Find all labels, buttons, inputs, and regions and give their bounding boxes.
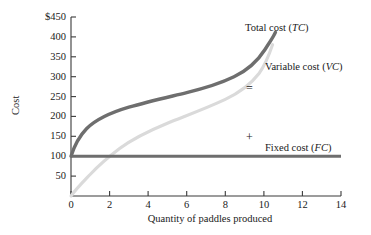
y-tick-label-150: 150 [12,131,66,142]
x-tick-label-14: 14 [327,200,355,211]
fixed-cost-label-suffix: ) [328,142,332,153]
total-cost-label: Total cost (TC) [245,23,308,34]
variable-cost-curve [71,45,273,196]
x-tick-label-8: 8 [211,200,239,211]
fixed-cost-label: Fixed cost (FC) [265,143,332,154]
variable-cost-label-prefix: Variable cost ( [265,61,326,72]
variable-cost-label-symbol: VC [326,61,339,72]
x-tick-label-2: 2 [96,200,124,211]
y-tick-label-100: 100 [12,151,66,162]
total-cost-label-prefix: Total cost ( [245,22,292,33]
fixed-cost-label-symbol: FC [315,142,328,153]
fixed-cost-label-prefix: Fixed cost ( [265,142,315,153]
variable-cost-label: Variable cost (VC) [265,62,343,73]
y-tick-label-400: 400 [12,32,66,43]
x-axis-title: Quantity of paddles produced [110,214,310,225]
x-tick-label-4: 4 [134,200,162,211]
cost-curves-chart: $450 400 350 300 250 200 150 100 50 0 2 … [0,0,371,235]
x-tick-label-0: 0 [57,200,85,211]
variable-cost-label-suffix: ) [339,61,343,72]
x-tick-label-12: 12 [288,200,316,211]
x-tick-label-10: 10 [250,200,278,211]
x-axis-ticks [71,191,341,196]
x-tick-label-6: 6 [173,200,201,211]
y-tick-label-350: 350 [12,52,66,63]
y-tick-label-50: 50 [12,171,66,182]
y-tick-label-450: $450 [12,12,66,23]
y-axis-title: Cost [11,80,22,130]
equals-annotation: = [246,82,253,94]
plus-annotation: + [246,131,253,143]
total-cost-curve [71,32,276,156]
total-cost-label-suffix: ) [305,22,309,33]
total-cost-label-symbol: TC [292,22,305,33]
